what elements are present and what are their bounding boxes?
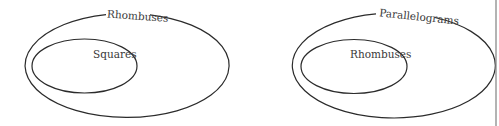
inner-set-label-left: Squares (93, 48, 137, 60)
venn-diagram-right: Parallelograms Rhombuses (292, 6, 495, 118)
outer-set-label-right: Parallelograms (379, 6, 460, 26)
venn-diagram-left: Rhombuses Squares (25, 8, 229, 118)
outer-set-ellipse-right (292, 14, 495, 118)
outer-set-ellipse-left (25, 15, 229, 118)
diagram-canvas: Rhombuses Squares Parallelograms Rhombus… (0, 0, 499, 126)
outer-set-label-left: Rhombuses (107, 8, 169, 24)
inner-set-label-right: Rhombuses (350, 48, 411, 60)
